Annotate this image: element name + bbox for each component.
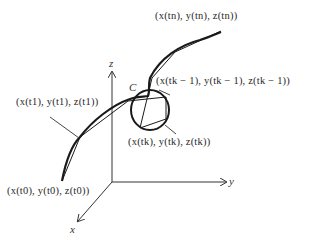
leader-pk [165, 125, 176, 134]
leader-p1 [50, 117, 79, 138]
point-label-t1: (x(t1), y(t1), z(t1)) [16, 96, 98, 107]
y-axis-label: y [229, 175, 234, 187]
point-label-tk: (x(tk), y(tk), z(tk)) [128, 136, 210, 147]
x-axis-label: x [70, 223, 75, 235]
z-axis-label: z [109, 57, 113, 69]
point-label-tn: (x(tn), y(tn), z(tn)) [155, 10, 237, 21]
space-curve-diagram [0, 0, 317, 247]
point-label-tk-minus-1: (x(tk − 1), y(tk − 1), z(tk − 1)) [156, 75, 290, 86]
zoom-circle [131, 90, 169, 130]
curve-label: C [129, 81, 136, 93]
point-label-t0: (x(t0), y(t0), z(t0)) [7, 185, 89, 196]
